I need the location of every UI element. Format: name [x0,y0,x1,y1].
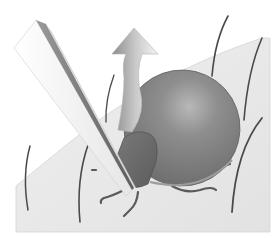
illustration-svg [0,0,278,238]
tick-removal-illustration [0,0,278,238]
